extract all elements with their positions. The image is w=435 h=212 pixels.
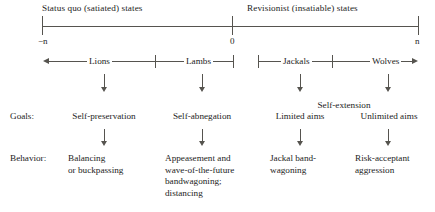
band-tick-lions-lambs [155,55,156,68]
header-caption-status-quo: Status quo (satiated) states [42,3,143,14]
down-arrow-head-wolves-behavior [385,141,391,146]
band-tick-jackals-start [258,55,259,68]
category-label-jackals: Jackals [281,56,312,66]
category-label-wolves: Wolves [370,56,401,66]
down-arrow-jackals-goals [300,74,301,88]
down-arrow-head-jackals-goals [297,87,303,92]
band-tick-lambs-end [233,55,234,68]
axis-tick-center [232,16,233,35]
behavior-cell-jackals: Jackal band- wagoning [270,153,354,176]
row-label-behavior: Behavior: [10,153,46,164]
band-tick-jackals-wolves [332,55,333,68]
down-arrow-head-lambs-goals [199,87,205,92]
down-arrow-head-wolves-goals [385,87,391,92]
goals-cell-lions: Self-preservation [54,111,154,123]
down-arrow-wolves-goals [388,74,389,88]
behavior-cell-wolves: Risk-acceptant aggression [355,153,435,176]
arrow-left-icon [43,58,49,64]
category-label-lions: Lions [87,56,112,66]
axis-label-zero: 0 [230,36,235,46]
axis-tick-right [418,16,419,35]
down-arrow-head-lambs-behavior [199,141,205,146]
axis-tick-left [42,16,43,35]
row-label-goals: Goals: [10,111,34,122]
down-arrow-head-jackals-behavior [297,141,303,146]
down-arrow-lambs-goals [202,74,203,88]
goals-cell-jackals: Limited aims [256,111,344,123]
axis-line [42,26,419,27]
down-arrow-lions-goals [104,74,105,88]
axis-label-negative-n: −n [38,36,48,46]
arrow-right-icon [412,58,418,64]
category-label-lambs: Lambs [184,56,213,66]
down-arrow-head-lions-goals [101,87,107,92]
header-caption-revisionist: Revisionist (insatiable) states [247,3,358,14]
behavior-cell-lions: Balancing or buckpassing [68,153,164,176]
goals-cell-wolves: Unlimited aims [344,111,434,123]
typology-diagram: Status quo (satiated) states Revisionist… [0,0,435,212]
down-arrow-head-lions-behavior [101,141,107,146]
goals-cell-lambs: Self-abnegation [155,111,249,123]
behavior-cell-lambs: Appeasement and wave-of-the-future bandw… [165,153,269,199]
goals-span-label-self-extension: Self-extension [282,100,406,111]
axis-label-positive-n: n [415,36,420,46]
